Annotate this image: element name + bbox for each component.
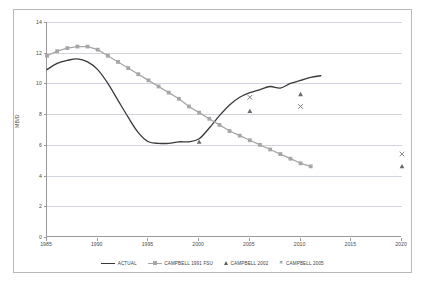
data-point-marker — [167, 91, 171, 95]
data-point-marker — [248, 95, 253, 100]
data-point-marker — [247, 109, 252, 113]
y-tick-label: 4 — [39, 173, 42, 179]
data-point-marker — [86, 45, 90, 49]
legend-item-actual[interactable]: ACTUAL — [101, 261, 137, 266]
legend-label: CAMPBELL 2005 — [286, 261, 324, 266]
plot-area — [46, 22, 401, 237]
legend-label: CAMPBELL 1991 FSU — [164, 261, 213, 266]
data-point-marker — [65, 46, 69, 50]
y-tick-label: 12 — [36, 50, 42, 56]
data-point-marker — [289, 157, 293, 161]
data-point-marker — [157, 85, 161, 89]
data-point-marker — [147, 78, 151, 82]
data-point-marker — [228, 129, 232, 133]
data-point-marker — [197, 111, 201, 115]
y-tick-label: 10 — [36, 80, 42, 86]
series-campbell-2005 — [248, 95, 405, 156]
series-campbell-1991-fsu — [45, 45, 313, 169]
triangle-marker-icon — [224, 261, 228, 265]
x-tick-label: 2020 — [395, 241, 407, 247]
data-point-marker — [299, 161, 303, 165]
x-tick-label: 2000 — [192, 241, 204, 247]
data-point-marker — [298, 104, 303, 109]
x-tick-label: 1990 — [91, 241, 103, 247]
y-axis-tick-labels: 14 12 10 8 6 4 2 0 — [22, 22, 42, 237]
data-point-marker — [126, 66, 130, 70]
x-tick-label: 2010 — [294, 241, 306, 247]
y-tick-label: 2 — [39, 203, 42, 209]
data-point-marker — [96, 48, 100, 52]
data-point-marker — [218, 123, 222, 127]
data-point-marker — [298, 92, 303, 96]
data-point-marker — [187, 105, 191, 109]
data-point-marker — [268, 148, 272, 152]
chart-canvas — [47, 22, 402, 237]
line-square-swatch-icon — [148, 261, 162, 265]
chart-figure: MB/D 14 12 10 8 6 4 2 0 — [0, 0, 425, 282]
x-tick-label: 1995 — [142, 241, 154, 247]
data-point-marker — [207, 117, 211, 121]
data-point-marker — [45, 54, 49, 58]
y-axis-title: MB/D — [14, 114, 20, 128]
data-point-marker — [238, 134, 242, 138]
chart-legend: ACTUAL CAMPBELL 1991 FSU CAMPBELL 2002 ✕… — [13, 256, 412, 270]
data-point-marker — [106, 54, 110, 58]
data-point-marker — [177, 97, 181, 101]
line-swatch-icon — [101, 263, 115, 264]
data-point-marker — [309, 164, 313, 168]
y-tick-label: 14 — [36, 19, 42, 25]
x-tick-label: 2005 — [243, 241, 255, 247]
legend-item-campbell-2002[interactable]: CAMPBELL 2002 — [224, 261, 268, 266]
y-tick-label: 0 — [39, 234, 42, 240]
data-point-marker — [258, 143, 262, 147]
data-point-marker — [55, 49, 59, 53]
data-point-marker — [278, 152, 282, 156]
legend-label: ACTUAL — [118, 261, 137, 266]
x-axis-tick-labels: 1985 1990 1995 2000 2005 2010 2015 2020 — [46, 238, 401, 250]
legend-label: CAMPBELL 2002 — [231, 261, 269, 266]
x-tick-label: 1985 — [40, 241, 52, 247]
legend-item-campbell-1991-fsu[interactable]: CAMPBELL 1991 FSU — [148, 261, 213, 266]
x-marker-icon: ✕ — [279, 260, 283, 265]
y-tick-label: 8 — [39, 111, 42, 117]
data-point-marker — [248, 138, 252, 142]
data-point-marker — [116, 60, 120, 64]
data-point-marker — [136, 72, 140, 76]
x-tick-label: 2015 — [345, 241, 357, 247]
series-actual — [47, 59, 321, 144]
legend-item-campbell-2005[interactable]: ✕ CAMPBELL 2005 — [279, 260, 323, 265]
y-tick-label: 6 — [39, 142, 42, 148]
data-point-marker — [76, 45, 80, 49]
